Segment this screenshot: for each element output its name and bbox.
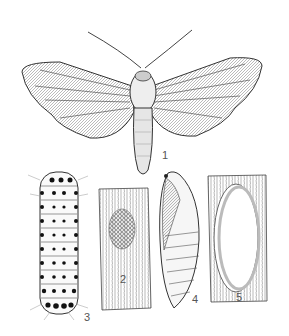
egg-mass-figure [99,188,151,310]
cocoon-figure [208,175,267,302]
figure-label-5: 5 [236,292,242,303]
figure-label-1: 1 [162,150,168,161]
figure-label-3: 3 [84,312,90,323]
illustration-plate: 1 2 3 4 5 [0,0,289,336]
figure-label-2: 2 [120,274,126,285]
plate-drawing [0,0,289,336]
figure-label-4: 4 [192,294,198,305]
larva-figure [28,172,88,320]
adult-moth-figure [22,30,262,174]
pupa-figure [160,172,199,308]
